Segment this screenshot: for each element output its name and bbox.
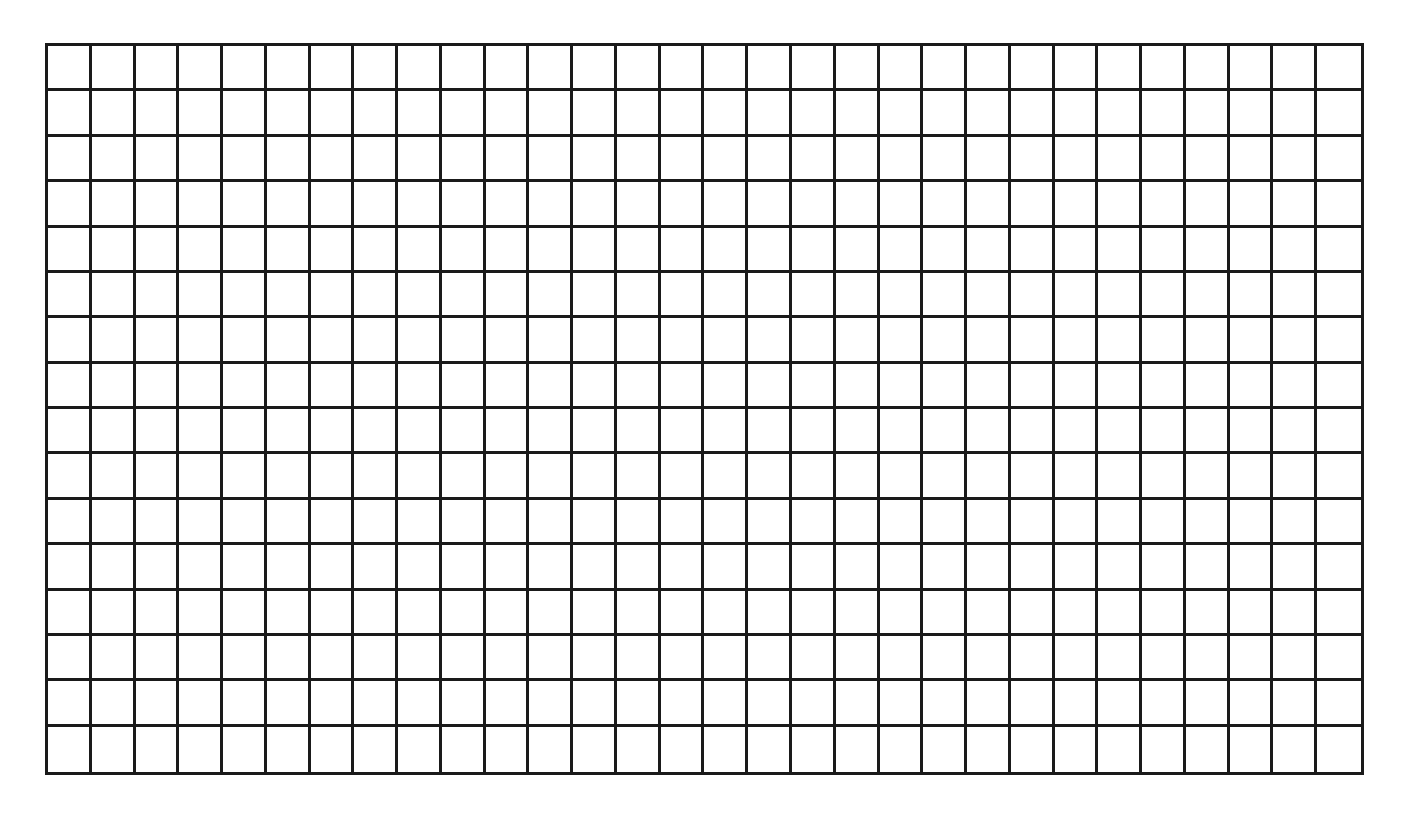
grid-cell	[1011, 91, 1055, 136]
grid-cell	[923, 500, 967, 545]
grid-cell	[880, 91, 924, 136]
grid-cell	[267, 318, 311, 363]
grid-cell	[1055, 273, 1099, 318]
grid-cell	[1273, 636, 1317, 681]
grid-cell	[179, 273, 223, 318]
grid-cell	[792, 545, 836, 590]
grid-cell	[967, 182, 1011, 227]
grid-cell	[1055, 591, 1099, 636]
grid-cell	[442, 454, 486, 499]
grid-cell	[92, 500, 136, 545]
grid-cell	[617, 409, 661, 454]
grid-cell	[748, 454, 792, 499]
grid-cell	[748, 681, 792, 726]
grid-cell	[836, 591, 880, 636]
grid-cell	[1098, 273, 1142, 318]
grid-cell	[136, 681, 180, 726]
grid-cell	[1011, 454, 1055, 499]
grid-cell	[1098, 91, 1142, 136]
grid-cell	[92, 727, 136, 772]
grid-cell	[1317, 364, 1361, 409]
grid-cell	[704, 545, 748, 590]
grid-cell	[48, 273, 92, 318]
grid-cell	[923, 46, 967, 91]
grid-cell	[880, 636, 924, 681]
grid-cell	[48, 500, 92, 545]
grid-cell	[748, 91, 792, 136]
grid-cell	[442, 228, 486, 273]
grid-cell	[573, 500, 617, 545]
grid-cell	[1230, 500, 1274, 545]
grid-cell	[136, 364, 180, 409]
grid-cell	[1142, 636, 1186, 681]
grid-cell	[1273, 91, 1317, 136]
grid-cell	[179, 46, 223, 91]
grid-cell	[836, 228, 880, 273]
grid-cell	[398, 273, 442, 318]
grid-cell	[1273, 454, 1317, 499]
grid-cell	[836, 500, 880, 545]
grid-cell	[223, 228, 267, 273]
grid-cell	[136, 318, 180, 363]
grid-cell	[354, 591, 398, 636]
grid-cell	[704, 636, 748, 681]
grid-cell	[1098, 182, 1142, 227]
grid-cell	[267, 454, 311, 499]
grid-cell	[136, 545, 180, 590]
grid-cell	[1317, 409, 1361, 454]
grid-cell	[836, 454, 880, 499]
grid-cell	[1098, 500, 1142, 545]
grid-cell	[136, 228, 180, 273]
grid-cell	[529, 182, 573, 227]
grid-cell	[792, 591, 836, 636]
grid-cell	[267, 364, 311, 409]
grid-cell	[967, 454, 1011, 499]
grid-cell	[1273, 545, 1317, 590]
grid-cell	[1186, 182, 1230, 227]
grid-cell	[92, 636, 136, 681]
grid-cell	[1142, 228, 1186, 273]
grid-cell	[792, 228, 836, 273]
grid-cell	[880, 545, 924, 590]
grid-cell	[136, 273, 180, 318]
grid-cell	[923, 409, 967, 454]
grid-cell	[179, 228, 223, 273]
grid-cell	[792, 454, 836, 499]
grid-cell	[179, 318, 223, 363]
grid-cell	[923, 727, 967, 772]
grid-cell	[223, 182, 267, 227]
grid-cell	[354, 636, 398, 681]
grid-cell	[311, 591, 355, 636]
grid-cell	[48, 591, 92, 636]
grid-cell	[967, 364, 1011, 409]
grid-cell	[1317, 727, 1361, 772]
grid-cell	[704, 591, 748, 636]
grid-cell	[704, 91, 748, 136]
grid-cell	[486, 137, 530, 182]
grid-cell	[267, 636, 311, 681]
grid-cell	[442, 318, 486, 363]
grid-cell	[617, 318, 661, 363]
grid-cell	[880, 681, 924, 726]
grid-cell	[267, 591, 311, 636]
grid-cell	[1230, 454, 1274, 499]
grid-cell	[1230, 46, 1274, 91]
grid-cell	[1098, 591, 1142, 636]
grid-cell	[1055, 228, 1099, 273]
grid-cell	[617, 228, 661, 273]
grid-cell	[92, 364, 136, 409]
grid-cell	[1142, 591, 1186, 636]
grid-cell	[1317, 636, 1361, 681]
grid-cell	[311, 318, 355, 363]
grid-cell	[573, 545, 617, 590]
grid-cell	[529, 500, 573, 545]
grid-cell	[486, 228, 530, 273]
grid-cell	[311, 273, 355, 318]
grid-cell	[1055, 137, 1099, 182]
grid-cell	[136, 727, 180, 772]
grid-cell	[267, 727, 311, 772]
grid-cell	[442, 182, 486, 227]
grid-cell	[398, 500, 442, 545]
grid-cell	[792, 318, 836, 363]
grid-cell	[661, 318, 705, 363]
